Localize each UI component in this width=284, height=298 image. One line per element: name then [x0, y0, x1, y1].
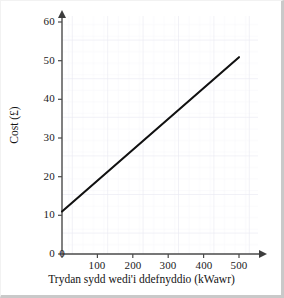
- y-tick-label-10: 10: [27, 208, 55, 220]
- x-axis-title: Trydan sydd wedi'i ddefnyddio (kWawr): [1, 273, 282, 285]
- y-axis-title: Cost (£): [8, 90, 20, 160]
- x-tick-label-500: 500: [222, 259, 256, 271]
- y-tick-label-50: 50: [27, 54, 55, 66]
- y-tick-label-60: 60: [27, 15, 55, 27]
- x-tick-label-300: 300: [151, 259, 185, 271]
- x-tick-label-200: 200: [116, 259, 150, 271]
- grid-group: [62, 16, 258, 254]
- x-tick-label-0: 0: [45, 247, 79, 259]
- x-tick-label-100: 100: [80, 259, 114, 271]
- x-tick-label-400: 400: [187, 259, 221, 271]
- figure-frame: 60 50 40 30 20 10 0 0 100 200 300 400 50…: [0, 0, 284, 298]
- chart-figure: 60 50 40 30 20 10 0 0 100 200 300 400 50…: [1, 1, 282, 296]
- y-tick-label-40: 40: [27, 92, 55, 104]
- y-tick-label-20: 20: [27, 170, 55, 182]
- y-tick-label-30: 30: [27, 131, 55, 143]
